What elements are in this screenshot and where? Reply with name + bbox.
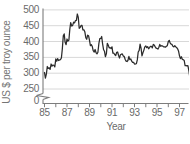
- y-tick-label-0: 0: [0, 96, 39, 106]
- gold-price-line-chart: US $ per troy ounce 500 450 400 350 300 …: [0, 0, 189, 144]
- y-tick-label-300: 300: [0, 68, 39, 78]
- y-tick-label-400: 400: [0, 37, 39, 47]
- x-tick-label-95: 95: [146, 107, 168, 118]
- x-tick-label-89: 89: [79, 107, 101, 118]
- y-tick-label-250: 250: [0, 84, 39, 94]
- x-axis-title: Year: [86, 121, 146, 132]
- price-line: [45, 14, 190, 78]
- gridlines: [43, 10, 189, 89]
- x-tick-label-85: 85: [34, 107, 56, 118]
- x-tick-label-87: 87: [56, 107, 78, 118]
- x-tick-label-93: 93: [124, 107, 146, 118]
- x-tick-label-97: 97: [169, 107, 190, 118]
- x-tick-label-91: 91: [101, 107, 123, 118]
- y-tick-label-500: 500: [0, 5, 39, 15]
- y-tick-label-450: 450: [0, 21, 39, 31]
- y-tick-label-350: 350: [0, 52, 39, 62]
